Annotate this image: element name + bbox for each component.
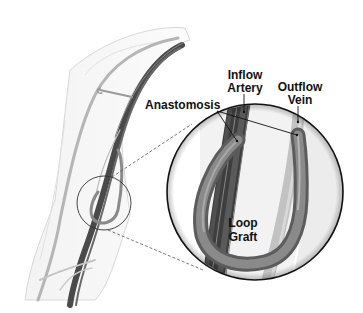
label-inflow: Inflow xyxy=(222,69,268,81)
label-loop-graft: Loop Graft xyxy=(224,217,262,243)
magnified-circle-shadow xyxy=(167,104,343,280)
label-graft: Graft xyxy=(224,231,262,243)
label-vein: Vein xyxy=(273,94,327,106)
label-inflow-artery: Inflow Artery xyxy=(222,69,268,94)
diagram-canvas: Inflow Artery Outflow Vein Anastomosis L… xyxy=(0,0,363,313)
arm-illustration xyxy=(0,0,363,313)
label-artery: Artery xyxy=(222,82,268,94)
label-outflow-vein: Outflow Vein xyxy=(273,81,327,106)
label-outflow: Outflow xyxy=(273,81,327,93)
label-loop: Loop xyxy=(224,217,262,229)
label-anastomosis: Anastomosis xyxy=(145,99,220,111)
